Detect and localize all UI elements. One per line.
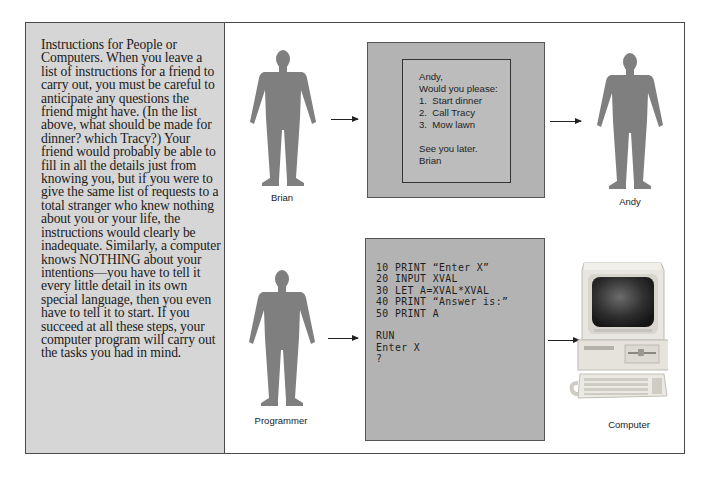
person-silhouette-programmer-icon xyxy=(249,270,315,408)
arrow-right-icon xyxy=(550,121,581,122)
basic-program-listing: 10 PRINT “Enter X”20 INPUT XVAL30 LET A=… xyxy=(365,238,545,441)
note-panel: Andy,Would you please:1. Start dinner2. … xyxy=(367,42,545,198)
personal-computer-icon xyxy=(568,258,668,408)
figure-frame: Instructions for People or Computers. Wh… xyxy=(25,22,685,454)
person-silhouette-andy-icon xyxy=(597,53,663,191)
caption-sidebar: Instructions for People or Computers. Wh… xyxy=(26,23,225,453)
instruction-note: Andy,Would you please:1. Start dinner2. … xyxy=(402,59,511,183)
program-code: 10 PRINT “Enter X”20 INPUT XVAL30 LET A=… xyxy=(376,262,508,365)
arrow-right-icon xyxy=(331,119,358,120)
person-silhouette-brian-icon xyxy=(250,50,316,188)
caption-text: Instructions for People or Computers. Wh… xyxy=(41,38,221,360)
device-label-computer: Computer xyxy=(579,419,679,430)
arrow-right-icon xyxy=(328,338,358,339)
person-label-andy: Andy xyxy=(580,196,680,207)
person-label-brian: Brian xyxy=(232,192,332,203)
person-label-programmer: Programmer xyxy=(231,415,331,426)
note-text: Andy,Would you please:1. Start dinner2. … xyxy=(419,71,498,167)
